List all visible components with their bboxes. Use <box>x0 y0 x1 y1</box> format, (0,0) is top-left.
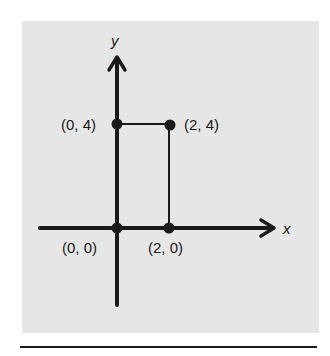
x-axis-label: x <box>282 220 291 237</box>
point-2-4 <box>165 120 176 131</box>
point-label-0-4: (0, 4) <box>61 116 96 133</box>
x-axis <box>40 220 274 236</box>
point-label-2-4: (2, 4) <box>184 116 219 133</box>
point-2-0 <box>164 223 175 234</box>
bottom-rule-divider <box>20 346 317 348</box>
point-label-2-0: (2, 0) <box>148 239 183 256</box>
y-axis-label: y <box>110 32 120 49</box>
point-0-4 <box>112 119 123 130</box>
y-axis <box>109 57 125 305</box>
point-label-0-0: (0, 0) <box>62 239 97 256</box>
coordinate-diagram: y x (0, 4) (2, 4) (0, 0) (2, 0) <box>0 0 330 356</box>
point-0-0 <box>112 223 123 234</box>
